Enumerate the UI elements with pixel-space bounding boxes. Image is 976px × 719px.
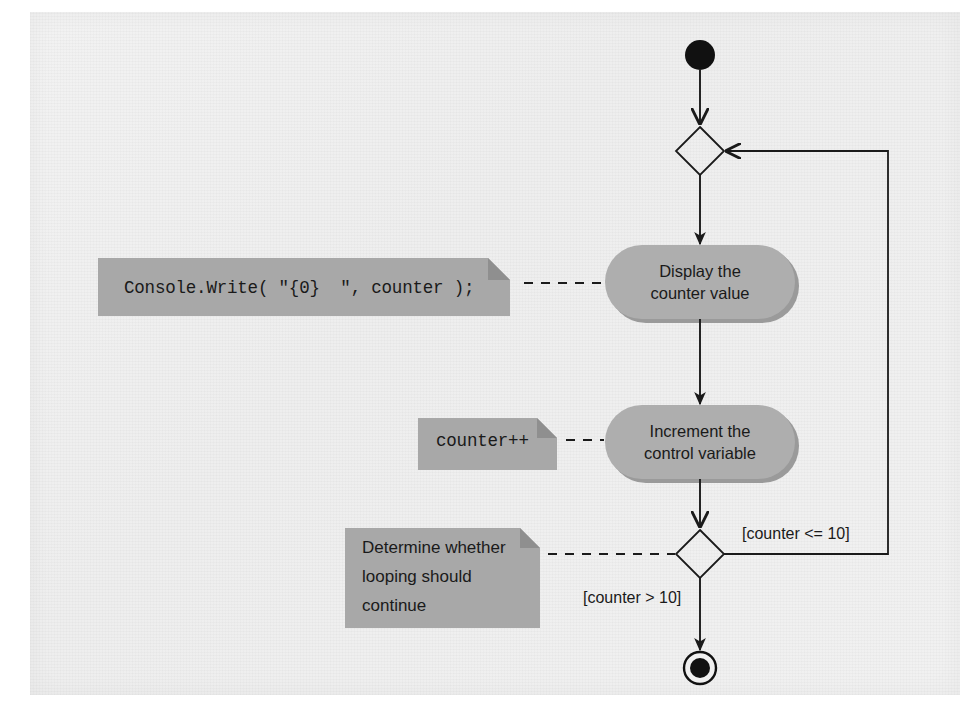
activity-diagram-canvas xyxy=(0,0,976,719)
increment-activity-label-line1: Increment the xyxy=(605,421,795,442)
diagram-page: Display the counter value Increment the … xyxy=(0,0,976,719)
flow-loop-back xyxy=(724,151,888,554)
initial-state-icon xyxy=(685,40,715,70)
merge-node-icon[interactable] xyxy=(676,127,724,175)
display-activity-label-line1: Display the xyxy=(605,261,795,282)
decision-node-icon[interactable] xyxy=(676,530,724,578)
decision-note-fold-icon xyxy=(520,528,540,548)
increment-note-fold-icon xyxy=(537,418,557,438)
increment-activity-label-line2: control variable xyxy=(605,443,795,464)
display-note-text: Console.Write( "{0} ", counter ); xyxy=(124,277,474,299)
decision-note-text-line2: looping should xyxy=(362,566,472,588)
increment-note-text: counter++ xyxy=(436,430,529,452)
display-note-fold-icon xyxy=(488,258,510,280)
guard-loop-continue: [counter <= 10] xyxy=(742,524,850,544)
display-activity-label-line2: counter value xyxy=(605,283,795,304)
decision-note-text-line3: continue xyxy=(362,595,426,617)
decision-note-text-line1: Determine whether xyxy=(362,537,506,559)
guard-loop-exit: [counter > 10] xyxy=(583,588,681,608)
final-state-icon xyxy=(684,652,716,684)
